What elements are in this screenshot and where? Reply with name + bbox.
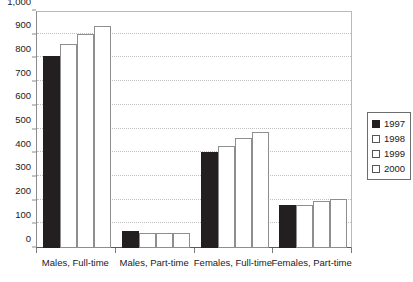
x-axis-ticks (36, 248, 352, 254)
x-axis-labels: Males, Full-timeMales, Part-timeFemales,… (36, 258, 352, 276)
y-tick-label: 200 (15, 186, 31, 196)
y-tick-label: 100 (15, 210, 31, 220)
y-tick-mark (32, 81, 36, 82)
legend: 1997199819992000 (367, 112, 411, 180)
bar (279, 205, 296, 248)
legend-item-label: 1999 (384, 149, 405, 159)
bar (77, 34, 94, 248)
bar (43, 56, 60, 248)
bar (122, 231, 139, 248)
bar (94, 26, 111, 248)
bar (156, 233, 173, 248)
bar (313, 201, 330, 248)
x-tick-mark (272, 248, 273, 253)
bars-layer (37, 11, 352, 248)
x-axis-category-label: Females, Full-time (194, 258, 272, 268)
bar (235, 138, 252, 248)
bar (330, 199, 347, 248)
bar (296, 205, 313, 248)
y-tick-mark (32, 199, 36, 200)
y-tick-label: 0 (26, 234, 31, 244)
y-tick-label: 600 (15, 92, 31, 102)
bar-chart: 01002003004005006007008009001,000 Males,… (0, 0, 413, 282)
legend-item-label: 2000 (384, 164, 405, 174)
y-tick-mark (32, 128, 36, 129)
legend-swatch-icon (372, 120, 380, 128)
y-tick-label: 1,000 (7, 0, 31, 6)
bar-group (201, 11, 269, 248)
legend-item[interactable]: 1998 (372, 131, 407, 146)
x-tick-mark (194, 248, 195, 253)
x-axis-category-label: Males, Part-time (120, 258, 189, 268)
bar (173, 233, 190, 248)
y-tick-mark (32, 10, 36, 11)
bar (201, 152, 218, 248)
y-tick-mark (32, 175, 36, 176)
bar-group (122, 11, 190, 248)
bar-group (279, 11, 347, 248)
y-tick-label: 300 (15, 163, 31, 173)
legend-item[interactable]: 1997 (372, 116, 407, 131)
bar-group (43, 11, 111, 248)
y-tick-mark (32, 223, 36, 224)
x-axis-category-label: Males, Full-time (42, 258, 109, 268)
y-tick-label: 500 (15, 115, 31, 125)
x-axis-category-label: Females, Part-time (272, 258, 352, 268)
bar (218, 146, 235, 248)
y-tick-mark (32, 57, 36, 58)
bar (252, 132, 269, 248)
legend-swatch-icon (372, 150, 380, 158)
x-tick-mark (36, 248, 37, 253)
legend-item-label: 1998 (384, 134, 405, 144)
legend-item-label: 1997 (384, 119, 405, 129)
y-tick-mark (32, 33, 36, 34)
legend-item[interactable]: 2000 (372, 161, 407, 176)
legend-item[interactable]: 1999 (372, 146, 407, 161)
chart-title (0, 0, 352, 2)
x-tick-mark (351, 248, 352, 253)
y-tick-label: 400 (15, 139, 31, 149)
y-tick-mark (32, 104, 36, 105)
x-tick-mark (115, 248, 116, 253)
y-tick-mark (32, 152, 36, 153)
y-tick-label: 800 (15, 44, 31, 54)
y-tick-label: 900 (15, 20, 31, 30)
bar (139, 233, 156, 248)
y-axis: 01002003004005006007008009001,000 (0, 11, 36, 248)
y-tick-label: 700 (15, 68, 31, 78)
legend-swatch-icon (372, 135, 380, 143)
bar (60, 44, 77, 248)
legend-swatch-icon (372, 165, 380, 173)
